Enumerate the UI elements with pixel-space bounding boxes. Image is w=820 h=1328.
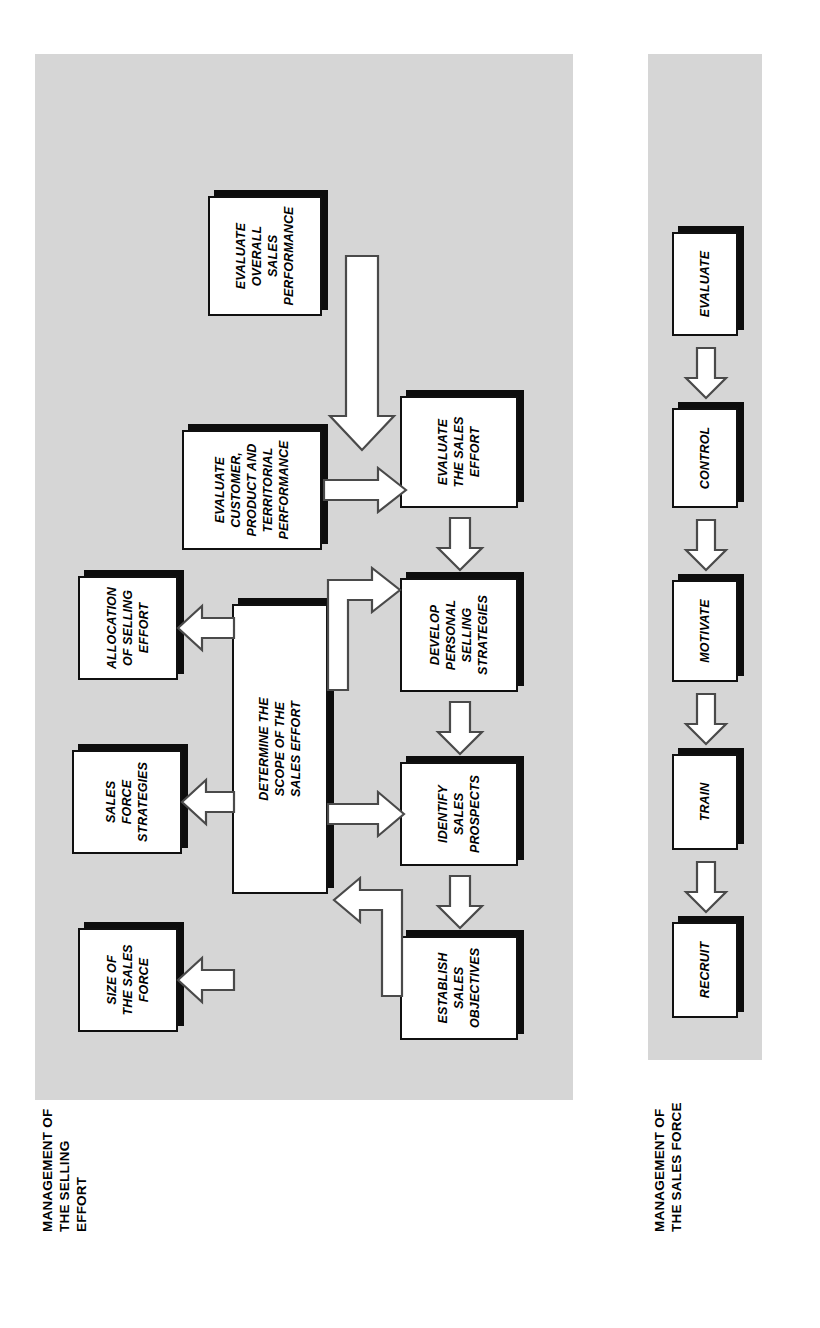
box-label: EVALUATE OVERALL SALES PERFORMANCE (233, 206, 297, 305)
box-face: ESTABLISH SALES OBJECTIVES (400, 936, 518, 1040)
box-evaluate: EVALUATE (672, 232, 738, 336)
arrow-train-to-motivate (682, 692, 730, 746)
box-face: CONTROL (672, 408, 738, 508)
box-face: EVALUATE CUSTOMER, PRODUCT AND TERRITORI… (182, 430, 322, 550)
box-face: SALES FORCE STRATEGIES (72, 750, 182, 854)
arrow-sales-force-strategies-to-determine (180, 774, 236, 830)
box-face: DETERMINE THE SCOPE OF THE SALES EFFORT (232, 604, 328, 894)
arrow-evaluate-customer-to-evaluate-effort (322, 462, 408, 518)
box-evaluate-the-sales-effort: EVALUATE THE SALES EFFORT (400, 396, 518, 508)
box-face: IDENTIFY SALES PROSPECTS (400, 762, 518, 866)
box-label: ESTABLISH SALES OBJECTIVES (435, 948, 483, 1028)
box-size-of-the-sales-force: SIZE OF THE SALES FORCE (78, 928, 178, 1032)
box-face: TRAIN (672, 754, 738, 850)
box-label: RECRUIT (697, 942, 713, 998)
arrow-establish-to-determine (326, 866, 404, 1006)
arrow-evaluate-overall-to-evaluate-effort (322, 254, 408, 452)
box-label: EVALUATE (697, 251, 713, 317)
box-evaluate-overall-sales-performance: EVALUATE OVERALL SALES PERFORMANCE (208, 196, 322, 316)
box-label: EVALUATE CUSTOMER, PRODUCT AND TERRITORI… (212, 440, 292, 539)
box-recruit: RECRUIT (672, 922, 738, 1018)
diagram-canvas: MANAGEMENT OF THE SELLING EFFORT ESTABLI… (0, 0, 820, 1328)
box-evaluate-customer-product-territorial: EVALUATE CUSTOMER, PRODUCT AND TERRITORI… (182, 430, 322, 550)
box-face: SIZE OF THE SALES FORCE (78, 928, 178, 1032)
box-label: DEVELOP PERSONAL SELLING STRATEGIES (427, 595, 491, 675)
box-face: EVALUATE OVERALL SALES PERFORMANCE (208, 196, 322, 316)
arrow-recruit-to-train (682, 860, 730, 914)
box-sales-force-strategies: SALES FORCE STRATEGIES (72, 750, 182, 854)
box-face: DEVELOP PERSONAL SELLING STRATEGIES (400, 578, 518, 692)
box-label: SIZE OF THE SALES FORCE (104, 944, 152, 1015)
box-face: ALLOCATION OF SELLING EFFORT (78, 576, 178, 680)
arrow-identify-to-develop (432, 700, 488, 756)
box-determine-scope-of-sales-effort: DETERMINE THE SCOPE OF THE SALES EFFORT (232, 604, 328, 894)
box-label: CONTROL (697, 427, 713, 490)
box-label: EVALUATE THE SALES EFFORT (435, 416, 483, 487)
arrow-establish-to-identify (432, 874, 488, 930)
arrow-determine-to-identify (326, 786, 406, 842)
box-label: SALES FORCE STRATEGIES (103, 762, 151, 842)
box-motivate: MOTIVATE (672, 580, 738, 682)
box-label: TRAIN (697, 783, 713, 822)
box-face: EVALUATE THE SALES EFFORT (400, 396, 518, 508)
arrow-develop-to-evaluate-effort (432, 516, 488, 572)
box-face: RECRUIT (672, 922, 738, 1018)
arrow-motivate-to-control (682, 518, 730, 572)
arrow-control-to-evaluate (682, 346, 730, 400)
box-identify-sales-prospects: IDENTIFY SALES PROSPECTS (400, 762, 518, 866)
box-face: EVALUATE (672, 232, 738, 336)
box-control: CONTROL (672, 408, 738, 508)
box-train: TRAIN (672, 754, 738, 850)
box-label: DETERMINE THE SCOPE OF THE SALES EFFORT (256, 697, 304, 800)
arrow-allocation-to-determine (176, 600, 236, 656)
arrow-size-to-determine (176, 952, 236, 1008)
box-label: IDENTIFY SALES PROSPECTS (435, 775, 483, 853)
box-label: MOTIVATE (697, 599, 713, 663)
box-face: MOTIVATE (672, 580, 738, 682)
box-develop-personal-selling-strategies: DEVELOP PERSONAL SELLING STRATEGIES (400, 578, 518, 692)
box-label: ALLOCATION OF SELLING EFFORT (104, 587, 152, 669)
arrow-determine-to-develop (326, 552, 406, 692)
box-allocation-of-selling-effort: ALLOCATION OF SELLING EFFORT (78, 576, 178, 680)
sales-force-caption: MANAGEMENT OF THE SALES FORCE (652, 1062, 686, 1232)
box-establish-sales-objectives: ESTABLISH SALES OBJECTIVES (400, 936, 518, 1040)
selling-effort-caption: MANAGEMENT OF THE SELLING EFFORT (40, 1102, 91, 1232)
